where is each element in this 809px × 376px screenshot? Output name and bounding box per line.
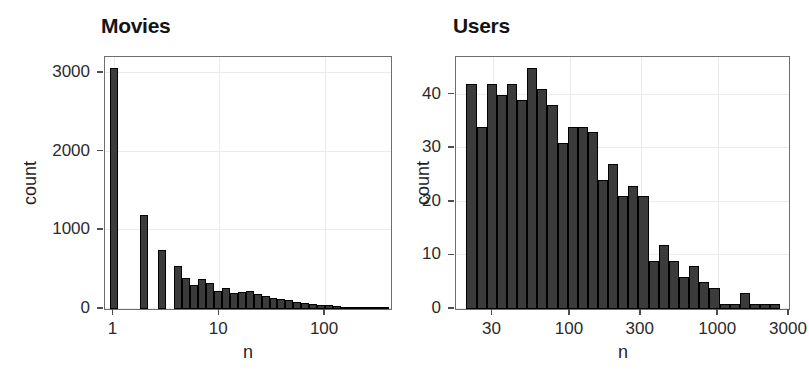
histogram-bar — [608, 164, 618, 309]
histogram-bar — [293, 302, 301, 309]
y-axis-tick-label: 40 — [422, 84, 441, 104]
y-axis-tick — [448, 146, 454, 148]
histogram-bar — [568, 127, 578, 309]
histogram-bar — [246, 291, 254, 309]
panel-title-users: Users — [453, 14, 510, 38]
histogram-bar — [381, 307, 389, 309]
histogram-bar — [238, 292, 246, 309]
histogram-bar — [699, 282, 709, 309]
histogram-bar — [740, 293, 750, 309]
histogram-bar — [517, 100, 527, 309]
x-axis-tick — [787, 309, 789, 315]
panel-users: Users 010203040 3010030010003000 n count — [405, 0, 809, 376]
histogram-bar — [477, 127, 487, 309]
histogram-bar — [578, 127, 588, 309]
x-axis-tick-label: 30 — [482, 319, 501, 339]
y-axis-tick-label: 30 — [422, 137, 441, 157]
panel-title-movies: Movies — [101, 14, 170, 38]
histogram-bar — [270, 298, 278, 309]
y-axis-tick-label: 10 — [422, 244, 441, 264]
histogram-bar — [182, 278, 190, 309]
y-axis-tick-label: 3000 — [52, 62, 90, 82]
histogram-bar — [301, 303, 309, 309]
histogram-bar — [373, 307, 381, 309]
x-axis-tick — [568, 309, 570, 315]
histogram-bar — [325, 305, 333, 309]
panel-movies: Movies 0100020003000 110100 n count — [0, 0, 405, 376]
y-axis-title-movies: count — [20, 161, 41, 205]
histogram-bar — [588, 132, 598, 309]
histogram-bar — [277, 299, 285, 309]
x-axis-tick — [716, 309, 718, 315]
y-axis-tick — [97, 228, 103, 230]
histogram-bar — [558, 143, 568, 309]
x-axis-title-movies: n — [243, 342, 253, 363]
histogram-bar — [214, 291, 222, 309]
x-axis-title-users: n — [618, 342, 628, 363]
bar-series-movies — [105, 57, 391, 309]
histogram-bar — [110, 68, 118, 309]
y-axis-tick-label: 1000 — [52, 219, 90, 239]
histogram-bar — [730, 304, 740, 309]
x-axis-tick-label: 1000 — [698, 319, 736, 339]
histogram-bar — [198, 279, 206, 309]
histogram-bar — [254, 294, 262, 309]
histogram-bar — [333, 306, 341, 309]
histogram-bar — [357, 307, 365, 309]
plot-area-movies — [104, 56, 392, 310]
histogram-bar — [230, 293, 238, 309]
histogram-bar — [309, 304, 317, 310]
plot-area-users — [455, 56, 790, 310]
histogram-bar — [638, 196, 648, 309]
histogram-bar — [527, 68, 537, 309]
x-axis-tick-label: 100 — [310, 319, 338, 339]
x-axis-tick — [218, 309, 220, 315]
histogram-bar — [507, 84, 517, 309]
y-axis-tick — [97, 71, 103, 73]
histogram-bar — [709, 288, 719, 309]
histogram-bar — [770, 304, 780, 309]
histogram-bar — [649, 261, 659, 309]
histogram-bar — [720, 304, 730, 309]
histogram-bar — [174, 266, 182, 309]
y-axis-tick-label: 0 — [81, 298, 90, 318]
gridline-vertical — [789, 57, 790, 309]
y-axis-tick — [448, 93, 454, 95]
y-axis-tick — [448, 307, 454, 309]
y-axis-tick — [448, 254, 454, 256]
histogram-bar — [190, 285, 198, 309]
histogram-bar — [628, 186, 638, 309]
histogram-bar — [158, 250, 166, 309]
y-axis-title-users: count — [413, 161, 434, 205]
x-axis-tick-label: 100 — [555, 319, 583, 339]
x-axis-tick — [491, 309, 493, 315]
histogram-bar — [262, 296, 270, 309]
histogram-bar — [466, 84, 476, 309]
histogram-bar — [487, 84, 497, 309]
histogram-bar — [349, 307, 357, 309]
histogram-bar — [750, 304, 760, 309]
x-axis-tick-label: 10 — [209, 319, 228, 339]
x-axis-tick — [112, 309, 114, 315]
histogram-bar — [140, 215, 148, 310]
histogram-bar — [659, 245, 669, 309]
x-axis-tick — [639, 309, 641, 315]
histogram-bar — [760, 304, 770, 309]
x-axis-tick-label: 3000 — [769, 319, 807, 339]
y-axis-tick-label: 0 — [432, 298, 441, 318]
histogram-bar — [497, 95, 507, 309]
histogram-bar — [365, 307, 373, 309]
histogram-bar — [598, 180, 608, 309]
y-axis-tick-label: 2000 — [52, 141, 90, 161]
histogram-bar — [618, 196, 628, 309]
histogram-bar — [537, 89, 547, 309]
histogram-bar — [679, 277, 689, 309]
x-axis-tick-label: 300 — [626, 319, 654, 339]
bar-series-users — [456, 57, 789, 309]
x-axis-tick — [323, 309, 325, 315]
histogram-bar — [222, 288, 230, 309]
histogram-bar — [689, 266, 699, 309]
histogram-bar — [547, 105, 557, 309]
histogram-bar — [206, 283, 214, 309]
figure-histogram-facets: Movies 0100020003000 110100 n count User… — [0, 0, 809, 376]
